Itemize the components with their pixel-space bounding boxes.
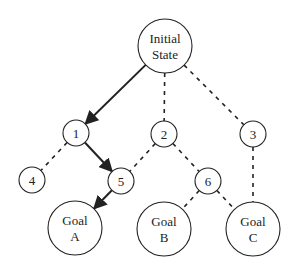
edge-n2-n5 xyxy=(130,144,155,172)
node-init: InitialState xyxy=(138,19,192,73)
edge-n1-n5 xyxy=(85,142,112,171)
node-n4: 4 xyxy=(19,167,45,193)
node-label: A xyxy=(70,229,80,244)
edge-init-n3 xyxy=(184,65,244,125)
search-tree-diagram: InitialState123456GoalAGoalBGoalC xyxy=(0,0,297,272)
node-label: C xyxy=(249,230,258,245)
node-label: 2 xyxy=(161,127,168,142)
node-n5: 5 xyxy=(108,168,134,194)
edge-init-n2 xyxy=(164,73,165,121)
nodes-layer: InitialState123456GoalAGoalBGoalC xyxy=(19,19,280,256)
node-label: 1 xyxy=(73,126,80,141)
node-label: State xyxy=(152,47,178,62)
edge-n1-n4 xyxy=(41,142,67,170)
node-n1: 1 xyxy=(63,120,89,146)
node-n3: 3 xyxy=(240,121,266,147)
edge-init-n1 xyxy=(85,65,145,124)
node-goalC: GoalC xyxy=(226,202,280,256)
node-label: Initial xyxy=(149,31,180,46)
node-label: 6 xyxy=(205,174,212,189)
node-goalA: GoalA xyxy=(48,201,102,255)
node-label: 3 xyxy=(250,127,257,142)
edge-n5-goalA xyxy=(94,190,112,208)
node-label: Goal xyxy=(240,214,266,229)
node-label: 4 xyxy=(29,173,36,188)
node-label: B xyxy=(160,230,169,245)
edge-n6-goalB xyxy=(182,191,199,210)
node-label: 5 xyxy=(118,174,125,189)
node-n2: 2 xyxy=(151,121,177,147)
node-n6: 6 xyxy=(195,168,221,194)
edge-n2-n6 xyxy=(173,143,199,171)
edge-n6-goalC xyxy=(217,190,235,209)
node-label: Goal xyxy=(151,214,177,229)
node-goalB: GoalB xyxy=(137,202,191,256)
node-label: Goal xyxy=(62,213,88,228)
